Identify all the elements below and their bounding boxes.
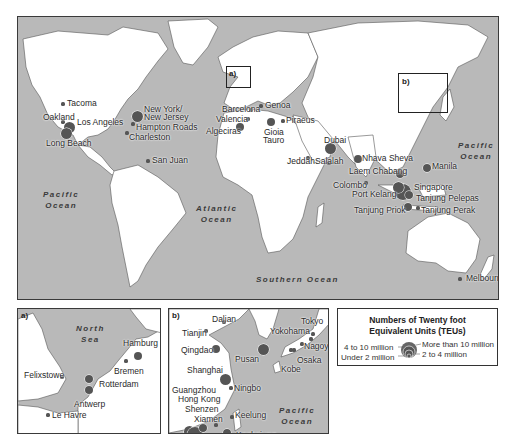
port-label: Hamburg [123,339,158,348]
port-marker[interactable] [199,424,207,432]
port-label: Tacoma [67,99,97,108]
port-label: Algeciras [206,127,241,136]
port-marker[interactable] [85,386,93,394]
port-label: Manila [432,162,457,171]
port-marker[interactable] [46,413,49,416]
port-marker[interactable] [281,119,284,122]
port-label: Jeddah [287,157,315,166]
port-marker[interactable] [458,277,461,280]
port-label: Tanjung Pelepas [416,194,479,203]
port-marker[interactable] [61,102,64,105]
ocean-label-pacific-east: PacificOcean [458,140,494,162]
port-label: Kobe [281,365,301,374]
port-marker[interactable] [220,374,231,385]
port-label: Laem Chabang [349,167,407,176]
port-label: Rotterdam [99,380,139,389]
port-marker[interactable] [292,348,295,351]
port-label: Charleston [129,133,170,142]
port-label: Bremen [114,367,144,376]
port-marker[interactable] [212,345,220,353]
port-marker[interactable] [311,332,314,335]
port-label: Shanghai [187,366,223,375]
port-label: Long Beach [46,139,91,148]
port-marker[interactable] [85,375,93,383]
port-label: Xiamen [194,415,223,424]
port-marker[interactable] [229,386,232,389]
port-marker[interactable] [259,104,262,107]
ocean-label-pacific-west: PacificOcean [43,189,79,211]
port-label: Hong Kong [178,395,221,404]
port-marker[interactable] [354,155,362,163]
port-label: Tauro [263,136,284,145]
port-label: Tokyo [301,317,323,326]
port-label: Antwerp [74,400,105,409]
port-label: New Jersey [144,113,188,122]
port-marker[interactable] [132,111,143,122]
port-marker[interactable] [289,348,292,351]
world-map: a) b) PacificOcean AtlanticOcean Souther… [17,16,499,300]
port-marker[interactable] [124,359,127,362]
ocean-label-pacific-inset: PacificOcean [279,405,315,427]
port-label: Qingdao [181,346,213,355]
port-marker[interactable] [223,429,231,434]
inset-a-marker-label: a) [229,69,236,78]
port-label: Oakland [43,113,75,122]
port-label: Valencia [216,115,248,124]
inset-b-map: b) PacificOcean DalianTianjinQingdaoPusa… [168,308,329,434]
port-label: Le Havre [52,411,87,420]
port-label: Dalian [212,315,236,324]
inset-a-marker[interactable]: a) [226,66,251,88]
port-label: Singapore [414,183,453,192]
port-marker[interactable] [134,352,142,360]
port-label: Hampton Roads [136,123,197,132]
port-label: Piraeus [286,116,315,125]
inset-a-map: a) NorthSea HamburgBremenFelixstoweRotte… [17,308,161,434]
port-label: Los Angeles [77,118,123,127]
port-label: Ningbo [234,384,261,393]
legend-item-2to4: 2 to 4 million [422,350,467,359]
inset-b-marker-label: b) [402,77,410,86]
port-label: Tianjin [182,329,207,338]
legend-item-over10: More than 10 million [422,340,494,349]
port-label: Genoa [265,101,291,110]
port-label: Salalah [315,157,343,166]
port-marker[interactable] [405,191,413,199]
port-label: Dubai [324,136,346,145]
legend: Numbers of Twenty foot Equivalent Units … [337,308,498,366]
port-label: Shenzen [185,405,219,414]
port-label: San Juan [152,156,188,165]
port-marker[interactable] [230,415,233,418]
port-label: Tanjung Priok [354,206,406,215]
inset-b-tag: b) [172,311,180,320]
port-label: Keelung [235,411,266,420]
port-label: Nagoya [304,342,329,351]
legend-item-4to10: 4 to 10 million [344,343,393,352]
port-marker[interactable] [61,128,72,139]
world-landmass [18,17,499,300]
port-marker[interactable] [267,118,275,126]
inset-a-tag: a) [21,311,28,320]
port-marker[interactable] [146,159,149,162]
ocean-label-southern: Southern Ocean [256,274,339,285]
ocean-label-north-sea: NorthSea [76,323,105,345]
port-label: Tanjung Perak [421,206,475,215]
port-label: Melbourne [466,274,499,283]
port-marker[interactable] [423,164,431,172]
port-label: Yokohama [270,327,310,336]
inset-b-marker[interactable]: b) [398,73,448,113]
port-label: Pusan [235,355,259,364]
port-label: Felixstowe [24,371,64,380]
port-label: Port Kelang [352,190,396,199]
port-label: Nhava Sheva [362,154,413,163]
ocean-label-atlantic: AtlanticOcean [196,203,237,225]
legend-item-under2: Under 2 million [341,353,394,362]
port-label: Kaohsiung [236,431,276,434]
port-marker[interactable] [258,344,269,355]
port-label: Barcelona [222,105,260,114]
port-marker[interactable] [131,122,134,125]
port-marker[interactable] [416,206,419,209]
